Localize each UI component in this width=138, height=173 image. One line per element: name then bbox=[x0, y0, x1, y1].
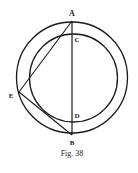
segment-EB bbox=[19, 92, 72, 135]
inner-circle bbox=[30, 34, 118, 122]
label-C: C bbox=[74, 36, 79, 44]
segment-AE bbox=[19, 21, 72, 92]
geometry-figure: A C E D B Fig. 38 bbox=[0, 0, 138, 173]
label-A: A bbox=[69, 9, 75, 18]
figure-caption: Fig. 38 bbox=[61, 149, 84, 158]
label-B: B bbox=[70, 139, 75, 147]
label-D: D bbox=[74, 112, 79, 120]
label-E: E bbox=[9, 92, 14, 100]
